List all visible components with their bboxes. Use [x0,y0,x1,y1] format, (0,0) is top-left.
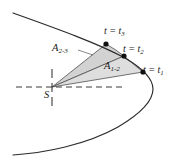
area-2-3-leader-line [78,50,93,55]
point-t3 [103,41,108,46]
orbit-curve [13,13,153,155]
label-t3: t = t3 [104,26,125,36]
label-focus-s: S [44,90,49,101]
label-t1: t = t1 [143,65,164,75]
label-t2: t = t2 [123,44,144,54]
label-area-1-2: A1-2 [104,61,120,72]
label-area-2-3: A2-3 [52,43,68,54]
figure-canvas [0,0,175,166]
point-t2 [121,53,126,58]
orbit-sector-figure: t = t3 t = t2 t = t1 A2-3 A1-2 S [0,0,175,166]
